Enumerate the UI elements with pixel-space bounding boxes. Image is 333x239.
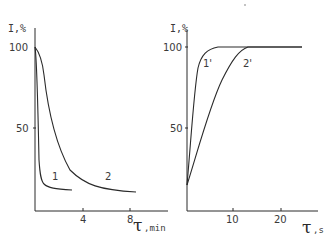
right-chart: I,% 100 50 10 20 τ ,s 1' 2' (163, 23, 324, 237)
right-xtick-label-10: 10 (226, 214, 239, 225)
left-curve-2-label: 2 (105, 171, 111, 182)
left-y-label: I,% (8, 23, 26, 34)
right-xtick-label-20: 20 (274, 214, 287, 225)
left-chart: I,% 100 50 4 8 τ ,min 1 2 (8, 23, 168, 235)
left-x-label-tau: τ (133, 215, 142, 235)
left-curve-1-label: 1 (52, 171, 58, 182)
left-ytick-label-100: 100 (9, 42, 28, 53)
right-x-label-unit: ,s (313, 225, 324, 235)
left-x-label-unit: ,min (144, 223, 166, 233)
right-curve-1prime-label: 1' (203, 58, 212, 69)
left-curve-2 (35, 47, 136, 192)
left-curve-1 (35, 47, 72, 190)
right-x-label-tau: τ (302, 217, 311, 237)
left-xtick-label-4: 4 (80, 214, 86, 225)
figure: I,% 100 50 4 8 τ ,min 1 2 I,% 100 50 10 … (0, 0, 333, 239)
right-ytick-label-100: 100 (163, 42, 182, 53)
stray-dot (244, 4, 246, 6)
right-y-label: I,% (170, 23, 188, 34)
right-curve-2prime-label: 2' (243, 58, 252, 69)
left-ytick-label-50: 50 (16, 123, 29, 134)
right-ytick-label-50: 50 (170, 123, 183, 134)
